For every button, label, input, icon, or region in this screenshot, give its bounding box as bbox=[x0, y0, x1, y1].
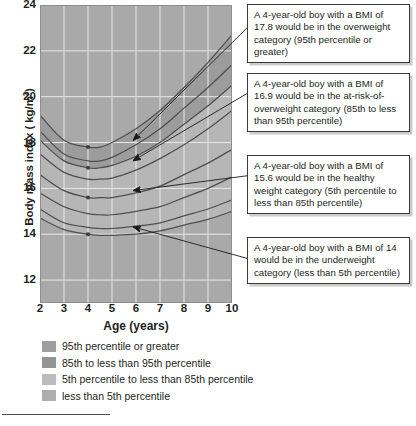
legend-label: 95th percentile or greater bbox=[62, 340, 179, 352]
underweight-marker bbox=[86, 232, 90, 236]
legend-label: 85th to less than 95th percentile bbox=[62, 357, 211, 369]
legend-item: 85th to less than 95th percentile bbox=[42, 355, 382, 372]
legend-swatch bbox=[42, 390, 56, 401]
y-axis-ticks: 12141618202224 bbox=[10, 0, 36, 426]
legend-item: 95th percentile or greater bbox=[42, 338, 382, 355]
x-tick-label: 10 bbox=[223, 302, 241, 314]
y-tick-label: 18 bbox=[14, 137, 36, 148]
plot-area bbox=[40, 5, 232, 303]
x-tick-label: 9 bbox=[199, 302, 217, 314]
y-tick-label: 20 bbox=[14, 91, 36, 102]
legend-label: 5th percentile to less than 85th percent… bbox=[62, 373, 253, 385]
y-tick-label: 12 bbox=[14, 274, 36, 285]
y-tick-label: 16 bbox=[14, 182, 36, 193]
callout-at-risk: A 4-year-old boy with a BMI of 16.9 woul… bbox=[247, 73, 410, 132]
legend-item: 5th percentile to less than 85th percent… bbox=[42, 371, 382, 388]
y-tick-label: 14 bbox=[14, 228, 36, 239]
x-axis-ticks: 2345678910 bbox=[0, 302, 416, 318]
x-tick-label: 6 bbox=[127, 302, 145, 314]
x-axis-title: Age (years) bbox=[40, 319, 232, 333]
bmi-growth-chart-figure: Body mass index ( kg/m2) 12141618202224 bbox=[0, 0, 416, 426]
legend-swatch bbox=[42, 357, 56, 368]
x-tick-label: 5 bbox=[103, 302, 121, 314]
y-tick-label: 22 bbox=[14, 45, 36, 56]
x-tick-label: 3 bbox=[55, 302, 73, 314]
legend: 95th percentile or greater85th to less t… bbox=[42, 338, 382, 404]
callout-healthy: A 4-year-old boy with a BMI of 15.6 woul… bbox=[247, 155, 410, 214]
x-tick-label: 4 bbox=[79, 302, 97, 314]
x-tick-label: 7 bbox=[151, 302, 169, 314]
legend-label: less than 5th percentile bbox=[62, 390, 170, 402]
callout-underweight: A 4-year-old boy with a BMI of 14 would … bbox=[247, 237, 410, 284]
legend-swatch bbox=[42, 341, 56, 352]
legend-item: less than 5th percentile bbox=[42, 388, 382, 405]
healthy-marker bbox=[86, 196, 90, 200]
x-tick-label: 2 bbox=[31, 302, 49, 314]
x-tick-label: 8 bbox=[175, 302, 193, 314]
y-tick-label: 24 bbox=[14, 0, 36, 10]
at-risk-marker bbox=[86, 166, 90, 170]
callout-overweight: A 4-year-old boy with a BMI of 17.8 woul… bbox=[247, 4, 410, 63]
legend-swatch bbox=[42, 374, 56, 385]
overweight-marker bbox=[86, 145, 90, 149]
bottom-divider bbox=[2, 414, 110, 415]
